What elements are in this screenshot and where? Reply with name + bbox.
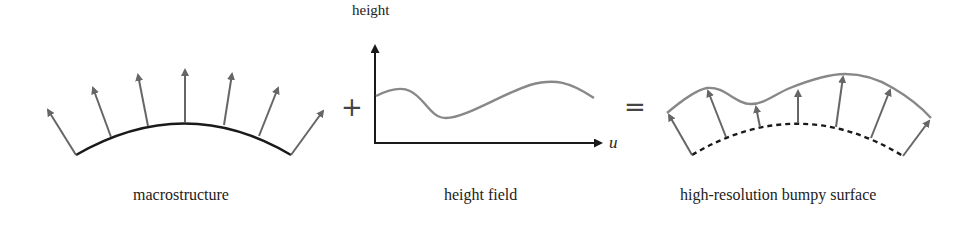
displacement-arrow-icon (903, 121, 929, 156)
bumpy-surface-panel (667, 74, 931, 156)
x-axis-label: u (609, 133, 618, 153)
plus-operator: + (341, 94, 363, 120)
normal-arrow-icon (48, 110, 76, 155)
displacement-arrow-icon (708, 91, 726, 137)
displacement-arrow-icon (756, 107, 760, 127)
normal-arrow-icon (259, 88, 278, 136)
y-axis-label: height (352, 2, 390, 19)
bumpy-surface-caption: high-resolution bumpy surface (680, 186, 876, 204)
displacement-arrow-icon (836, 77, 843, 127)
displacement-arrow-icon (669, 115, 692, 155)
normal-arrow-icon (224, 74, 232, 125)
macrostructure-panel (48, 70, 323, 155)
normal-arrows (48, 70, 323, 155)
equals-operator: = (624, 94, 646, 120)
height-field-panel (374, 46, 601, 144)
normal-arrow-icon (291, 111, 323, 155)
displacement-arrow-icon (871, 90, 890, 138)
macrostructure-caption: macrostructure (133, 186, 229, 204)
normal-arrow-icon (138, 75, 148, 126)
height-field-caption: height field (444, 186, 517, 204)
height-curve (376, 82, 594, 118)
normal-arrow-icon (93, 88, 111, 137)
